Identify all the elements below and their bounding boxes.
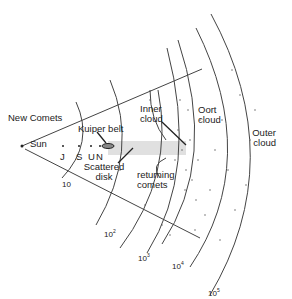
scale-tick-10: 10 bbox=[62, 180, 71, 190]
scale-tick-10-2: 102 bbox=[104, 226, 116, 240]
inner-cloud-label: Inner cloud bbox=[140, 104, 170, 124]
kuiper-belt-label: Kuiper belt bbox=[78, 124, 123, 134]
comet-reservoir-diagram: New Comets Sun J S U N Kuiper belt Scatt… bbox=[0, 0, 292, 299]
outer-cloud-label: Outer cloud bbox=[236, 128, 276, 148]
new-comets-label: New Comets bbox=[8, 113, 62, 123]
jupiter-label: J bbox=[60, 152, 65, 162]
sun-label: Sun bbox=[30, 139, 47, 149]
saturn-label: S bbox=[76, 152, 82, 162]
kuiper-belt-marker bbox=[102, 144, 114, 149]
scattered-disk-band bbox=[108, 141, 186, 155]
scale-tick-10-3: 103 bbox=[138, 250, 150, 264]
oort-cloud-label: Oort cloud bbox=[198, 105, 226, 125]
scale-tick-10-5: 105 bbox=[208, 285, 220, 299]
scattered-disk-label: Scattered disk bbox=[80, 162, 128, 182]
returning-comets-label: returning comets bbox=[137, 170, 177, 190]
scale-tick-10-4: 104 bbox=[172, 258, 184, 272]
